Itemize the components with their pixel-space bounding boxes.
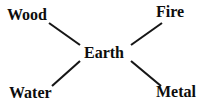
edge-earth-wood — [49, 23, 80, 45]
five-elements-diagram: Wood Fire Earth Water Metal — [0, 0, 210, 109]
node-label-water: Water — [9, 85, 52, 101]
edge-earth-fire — [131, 23, 162, 45]
node-label-wood: Wood — [7, 7, 47, 23]
node-label-fire: Fire — [156, 4, 184, 20]
edge-earth-water — [52, 61, 80, 86]
node-label-metal: Metal — [156, 84, 196, 100]
node-label-earth: Earth — [84, 45, 124, 61]
